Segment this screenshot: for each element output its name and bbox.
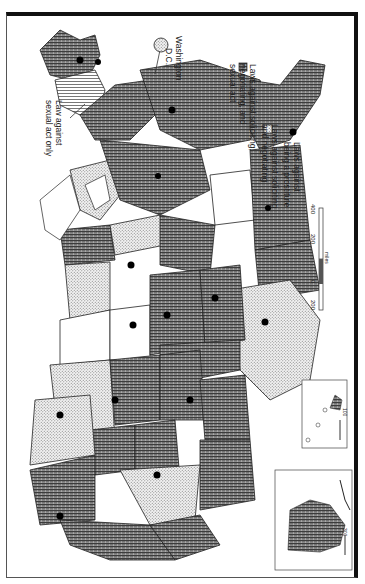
alaska-scale-label: 300	[340, 528, 350, 536]
state-nebraska	[150, 270, 205, 355]
callout-washington-dc: Washington D.C.	[164, 36, 184, 81]
state-kansas	[200, 265, 245, 345]
state-tennessee-area	[210, 170, 255, 225]
scale-unit: miles	[322, 252, 332, 264]
state-washington	[30, 395, 95, 465]
state-new-mexico	[200, 375, 250, 440]
legend-swatch-dot	[290, 129, 297, 136]
state-illinois-area	[160, 215, 215, 275]
state-arizona	[200, 440, 255, 510]
state-colorado	[160, 350, 205, 420]
region-ohio-valley	[100, 140, 210, 215]
callout-sexual-act-only: Law against sexual act only	[44, 100, 64, 156]
state-wisconsin	[60, 225, 115, 265]
legend-label-dot: Laws against being a prostitute	[282, 142, 302, 207]
hawaii-scale-label: 100	[340, 408, 350, 416]
scale-tick-200: 200	[308, 234, 318, 244]
legend-label-hatch: Laws against soliciting, negotiating, an…	[228, 64, 258, 151]
map-figure: Laws against soliciting, negotiating, an…	[0, 0, 365, 584]
state-wyoming	[110, 355, 160, 425]
scale-tick-0: 0	[308, 280, 318, 283]
us-map	[0, 0, 365, 584]
scale-tick-200b: 200	[308, 300, 318, 310]
legend-label-stipple: Laws against soliciting and negotiating	[260, 124, 280, 209]
state-north-dakota	[60, 310, 110, 365]
state-iowa-area	[110, 215, 165, 255]
scale-tick-400: 400	[308, 204, 318, 214]
state-south-dakota	[110, 305, 150, 360]
state-idaho	[90, 425, 135, 475]
